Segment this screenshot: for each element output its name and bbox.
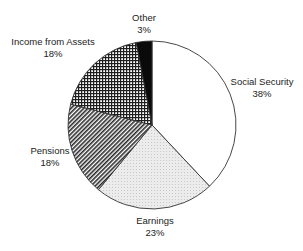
label-pensions-name: Pensions (30, 145, 69, 156)
label-social-security-name: Social Security (231, 76, 294, 87)
pie-chart: Other 3% Income from Assets 18% Social S… (0, 0, 303, 251)
label-social-security: Social Security 38% (231, 76, 294, 99)
label-social-security-pct: 38% (252, 88, 272, 99)
pie-slices (68, 41, 236, 209)
label-income-from-assets-pct: 18% (43, 48, 63, 59)
label-earnings: Earnings 23% (136, 215, 174, 238)
label-earnings-name: Earnings (136, 215, 174, 226)
pie-chart-svg: Other 3% Income from Assets 18% Social S… (0, 0, 303, 251)
label-other: Other 3% (132, 12, 156, 35)
label-earnings-pct: 23% (145, 227, 165, 238)
label-income-from-assets-name: Income from Assets (11, 36, 95, 47)
label-other-pct: 3% (137, 24, 151, 35)
label-pensions: Pensions 18% (30, 145, 69, 168)
label-pensions-pct: 18% (40, 157, 60, 168)
label-other-name: Other (132, 12, 156, 23)
label-income-from-assets: Income from Assets 18% (11, 36, 95, 59)
